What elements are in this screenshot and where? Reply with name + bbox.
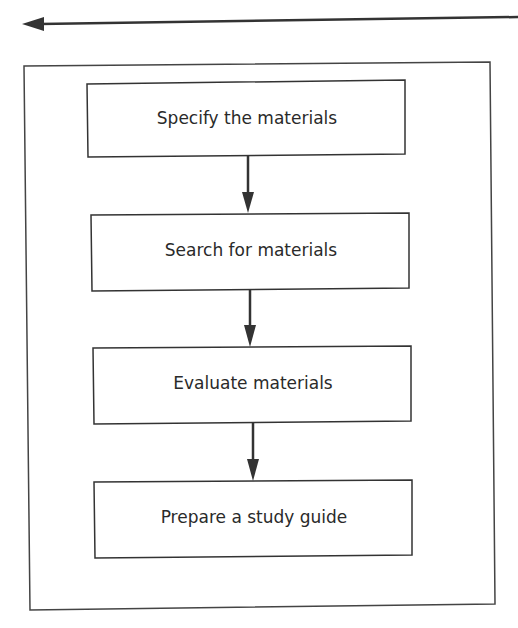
- down-arrow-icon-3: [247, 423, 259, 481]
- top-left-arrow-icon: [22, 17, 518, 31]
- flowchart-canvas: Specify the materials Search for materia…: [0, 0, 518, 628]
- down-arrow-icon-1: [242, 156, 254, 213]
- step-label-2: Search for materials: [92, 240, 410, 260]
- down-arrow-icon-2: [244, 290, 256, 347]
- flowchart-graphics: [0, 0, 518, 628]
- step-label-4: Prepare a study guide: [95, 507, 413, 527]
- step-label-1: Specify the materials: [88, 108, 406, 128]
- step-label-3: Evaluate materials: [94, 373, 412, 393]
